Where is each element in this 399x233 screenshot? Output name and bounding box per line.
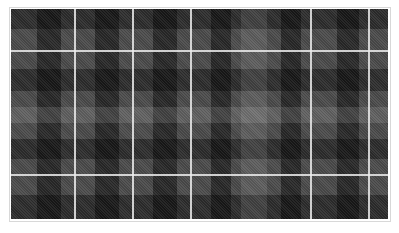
plaid-fabric-swatch bbox=[11, 9, 388, 219]
white-horizontal-stripe bbox=[11, 174, 388, 176]
light-vertical-band bbox=[241, 9, 267, 219]
white-vertical-stripe bbox=[190, 9, 192, 219]
white-vertical-stripe bbox=[368, 9, 370, 219]
white-vertical-stripe bbox=[310, 9, 312, 219]
white-vertical-stripe bbox=[74, 9, 76, 219]
light-horizontal-band bbox=[11, 107, 388, 123]
dark-horizontal-band bbox=[11, 195, 388, 219]
white-vertical-stripe bbox=[132, 9, 134, 219]
dark-horizontal-band bbox=[11, 69, 388, 91]
dark-horizontal-band bbox=[11, 9, 388, 29]
dark-horizontal-band bbox=[11, 139, 388, 159]
white-horizontal-stripe bbox=[11, 50, 388, 52]
